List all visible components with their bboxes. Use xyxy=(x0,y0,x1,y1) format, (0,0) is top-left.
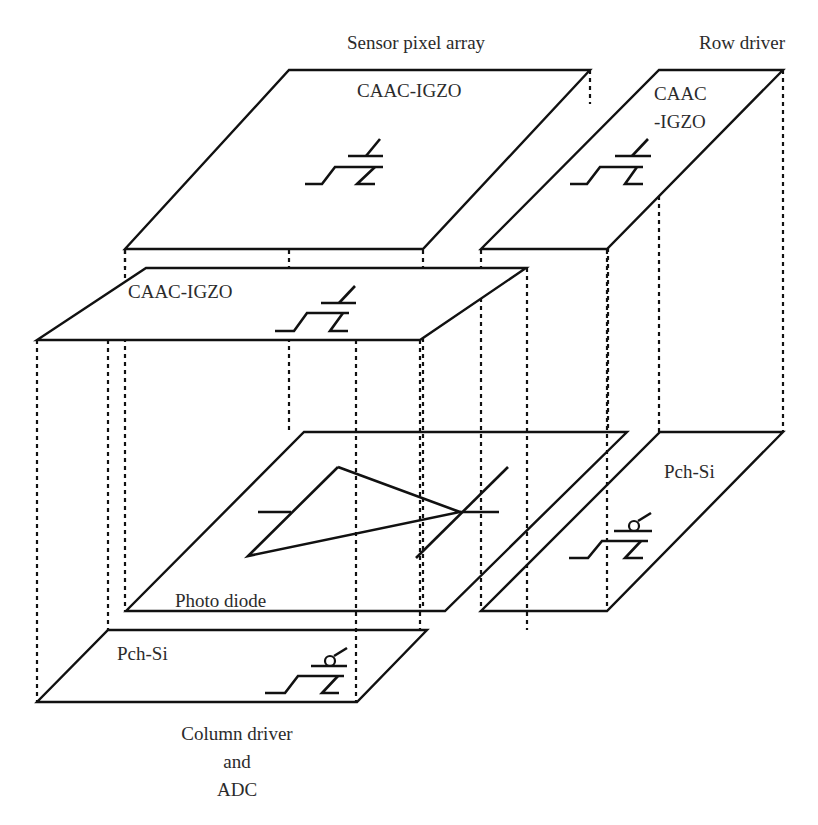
photodiode-plane: Photo diode xyxy=(126,432,627,611)
photodiode-label: Photo diode xyxy=(175,590,266,611)
photodiode-icon xyxy=(248,467,508,558)
row-driver-title: Row driver xyxy=(699,32,786,53)
row-top-label-2: -IGZO xyxy=(654,111,706,132)
row-bottom-label: Pch-Si xyxy=(664,461,715,482)
sensor-pixel-array-title: Sensor pixel array xyxy=(347,32,486,53)
column-driver-title-1: Column driver xyxy=(181,723,293,744)
column-bottom-label: Pch-Si xyxy=(117,643,168,664)
column-driver-title-2: and xyxy=(223,751,251,772)
column-bottom-plane: Pch-Si xyxy=(37,630,427,702)
column-driver-title-3: ADC xyxy=(217,779,257,800)
row-bottom-plane: Pch-Si xyxy=(481,432,783,611)
stacked-sensor-diagram: CAAC-IGZO CAAC -IGZO Photo diode xyxy=(0,0,818,825)
column-top-label: CAAC-IGZO xyxy=(128,281,233,302)
si-transistor-icon xyxy=(569,513,652,558)
column-top-plane: CAAC-IGZO xyxy=(37,250,526,340)
row-top-label-1: CAAC xyxy=(654,83,707,104)
si-transistor-icon xyxy=(265,648,347,693)
sensor-top-label: CAAC-IGZO xyxy=(357,80,462,101)
